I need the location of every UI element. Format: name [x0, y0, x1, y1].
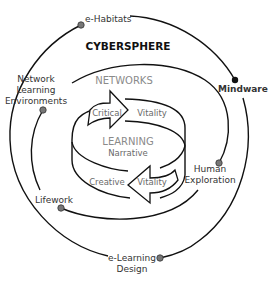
cylinder-right-inner [160, 146, 185, 168]
e-habitats-dot [78, 22, 84, 28]
top-arrow-right-label: Vitality [137, 108, 167, 118]
middle-ring-bottom-arc [61, 190, 198, 219]
lifework-dot [58, 205, 64, 211]
mindware-label: Mindware [218, 84, 268, 94]
e-learning-design-line2: Design [116, 264, 147, 274]
cybersphere-title: CYBERSPHERE [85, 40, 170, 52]
mindware-dot [232, 77, 238, 83]
outer-ring-left-arc [10, 25, 108, 256]
human-exploration-line1: Human [194, 164, 226, 174]
e-habitats-label: e-Habitats [85, 14, 132, 24]
e-learning-design-line1: e-Learning [108, 253, 156, 263]
learning-title: LEARNING [102, 136, 153, 147]
bottom-arrow-right-label: Vitality [137, 177, 167, 187]
bottom-arrow-left-label: Creative [89, 177, 125, 187]
human-exploration-line2: Exploration [184, 175, 235, 185]
network-learning-environments-dot [40, 107, 46, 113]
networks-title: NETWORKS [95, 75, 153, 86]
network-learning-environments-line2: Learning [16, 85, 55, 95]
network-learning-environments-line3: Environments [5, 96, 67, 106]
middle-ring-left-arc [31, 110, 43, 190]
narrative-subtitle: Narrative [108, 148, 148, 158]
cybersphere-diagram: e-Habitats CYBERSPHERE Mindware Network … [0, 0, 273, 283]
e-learning-design-dot [157, 255, 163, 261]
top-arrow-left-label: Critical [92, 108, 122, 118]
network-learning-environments-line1: Network [17, 74, 55, 84]
lifework-label: Lifework [35, 195, 74, 205]
